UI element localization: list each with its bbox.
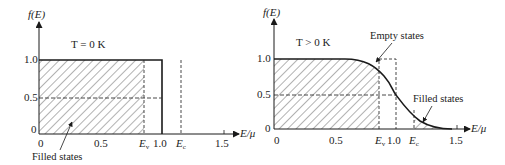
empty-states-label: Empty states <box>370 30 424 41</box>
filled-states-label: Filled states <box>413 93 463 104</box>
x-axis-label: E/μ <box>470 122 487 134</box>
ec-label: Ec <box>175 137 186 151</box>
filled-region <box>39 60 144 134</box>
condition-label: T > 0 K <box>296 36 330 48</box>
ev-label: Ev <box>374 134 386 148</box>
x-tick-05: 0.5 <box>329 134 343 146</box>
x-tick-1: 1.0 <box>153 137 167 149</box>
y-tick-05: 0.5 <box>257 88 271 100</box>
empty-states-box <box>379 59 396 129</box>
x-tick-0: 0 <box>38 137 44 149</box>
right-plot: f(E) T > 0 K 1.0 0.5 0 0 0.5 Ev 1.0 Ec 1… <box>257 6 487 148</box>
filled-region-valence <box>274 59 379 129</box>
y-axis-label: f(E) <box>28 8 45 21</box>
left-plot: f(E) T = 0 K 1.0 0.5 0 0 0.5 Ev 1.0 Ec 1… <box>24 8 256 162</box>
y-tick-0: 0 <box>31 123 37 135</box>
filled-states-pointer <box>423 106 432 122</box>
x-tick-1: 1.0 <box>387 134 401 146</box>
y-axis-label: f(E) <box>263 6 280 19</box>
x-tick-0: 0 <box>274 134 280 146</box>
ec-label: Ec <box>408 134 419 148</box>
y-tick-05: 0.5 <box>24 91 38 103</box>
ev-label: Ev <box>138 137 150 151</box>
x-tick-05: 0.5 <box>94 137 108 149</box>
y-tick-1: 1.0 <box>257 52 271 64</box>
y-tick-1: 1.0 <box>24 53 38 65</box>
filled-states-label: Filled states <box>32 151 82 162</box>
x-tick-15: 1.5 <box>449 134 463 146</box>
condition-label: T = 0 K <box>71 38 105 50</box>
x-tick-15: 1.5 <box>215 137 229 149</box>
fermi-dirac-diagram: f(E) T = 0 K 1.0 0.5 0 0 0.5 Ev 1.0 Ec 1… <box>0 0 505 165</box>
x-axis-label: E/μ <box>239 127 256 139</box>
y-tick-0: 0 <box>265 122 271 134</box>
